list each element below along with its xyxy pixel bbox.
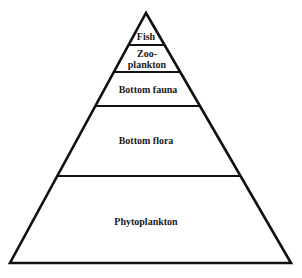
level-label-fish: Fish (137, 31, 156, 42)
level-bottom-flora: Bottom flora (119, 135, 174, 146)
level-label-bottom-fauna: Bottom fauna (119, 84, 178, 95)
level-label-zooplankton-line2: plankton (128, 59, 167, 70)
level-phytoplankton: Phytoplankton (114, 216, 178, 227)
level-label-zooplankton-line1: Zoo- (137, 48, 157, 59)
level-fish: Fish (137, 31, 156, 42)
level-label-bottom-flora: Bottom flora (119, 135, 174, 146)
pyramid-diagram: Fish Zoo- plankton Bottom fauna Bottom f… (0, 0, 302, 278)
level-bottom-fauna: Bottom fauna (119, 84, 178, 95)
level-label-phytoplankton: Phytoplankton (114, 216, 178, 227)
